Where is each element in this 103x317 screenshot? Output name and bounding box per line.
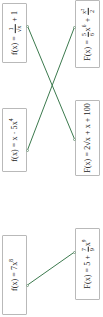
antiderivative-expression-right-1: F(x) = 56x6 + x²2 — [80, 7, 94, 61]
connector-dot-right-2[interactable] — [73, 138, 76, 141]
connector-left3-right3[interactable] — [28, 252, 75, 285]
function-card-left-3[interactable]: f(x) = 7x8 — [2, 235, 27, 315]
expr-body: f(x) = 7x — [10, 262, 19, 291]
antiderivative-card-right-2[interactable]: F(x) = 2√x + x + 100 — [75, 100, 100, 176]
fraction-denominator: 2 — [87, 8, 95, 15]
fraction-numerator: 1 — [7, 24, 14, 33]
connector-left1-right2[interactable] — [28, 26, 75, 139]
connector-left2-right1[interactable] — [28, 27, 75, 150]
fraction-numerator: x² — [80, 8, 87, 15]
fraction-numerator: 5 — [80, 32, 87, 37]
fraction-seven-ninths: 79 — [80, 247, 94, 252]
connector-dot-right-3[interactable] — [73, 251, 76, 254]
function-expression-left-2: f(x) = x · 5x4 — [11, 118, 19, 161]
connector-dot-right-1[interactable] — [73, 26, 76, 29]
fraction-numerator: 7 — [80, 247, 87, 252]
expr-operator: + — [82, 16, 91, 25]
function-card-left-2[interactable]: f(x) = x · 5x4 — [2, 108, 27, 172]
antiderivative-card-right-1[interactable]: F(x) = 56x6 + x²2 — [75, 0, 100, 68]
fraction-denominator: 9 — [87, 247, 95, 252]
fraction-denominator: 6 — [87, 32, 95, 37]
function-card-left-1[interactable]: f(x) = 1√x + 1 — [2, 3, 27, 63]
expr-exponent: 8 — [8, 259, 14, 262]
antiderivative-card-right-3[interactable]: F(x) = 5 + 79x9 — [75, 228, 100, 300]
expr-tail: + 1 — [9, 11, 18, 24]
expr-lead: F(x) = 5 + — [82, 253, 91, 289]
function-expression-left-1: f(x) = 1√x + 1 — [7, 11, 21, 55]
fraction: 1√x — [7, 24, 21, 33]
expr-body: f(x) = x · 5x — [10, 121, 19, 161]
expr-exponent: 4 — [8, 118, 14, 121]
expr-lead: F(x) = — [82, 38, 91, 61]
fraction-x-squared-over-two: x²2 — [80, 8, 94, 15]
expr-variable: x — [82, 27, 91, 31]
connector-dot-left-3[interactable] — [26, 284, 29, 287]
antiderivative-expression-right-3: F(x) = 5 + 79x9 — [80, 239, 94, 288]
expr-variable: x — [82, 242, 91, 246]
antiderivative-expression-right-2: F(x) = 2√x + x + 100 — [84, 103, 92, 173]
function-expression-left-3: f(x) = 7x8 — [11, 259, 19, 291]
fraction-five-sixths: 56 — [80, 32, 94, 37]
connector-dot-left-1[interactable] — [26, 25, 29, 28]
expr-lead: f(x) = — [9, 34, 18, 55]
expr-exponent: 9 — [81, 239, 87, 242]
fraction-denominator: √x — [14, 24, 22, 33]
connector-dot-left-2[interactable] — [26, 149, 29, 152]
matching-exercise-canvas: f(x) = 1√x + 1 f(x) = x · 5x4 f(x) = 7x8… — [0, 0, 103, 317]
